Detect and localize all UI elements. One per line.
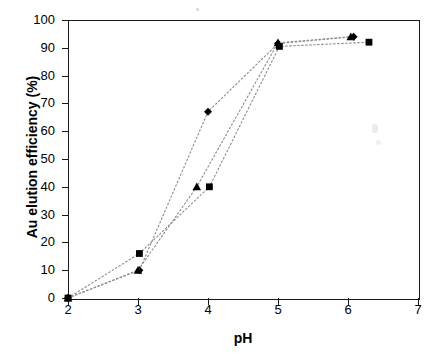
- y-axis-tick: [62, 20, 69, 21]
- x-axis-tick-label: 3: [118, 303, 158, 317]
- y-axis-tick-label: 60: [15, 124, 55, 137]
- y-axis-tick-label: 30: [15, 208, 55, 221]
- y-axis-tick-label: 100: [15, 13, 55, 26]
- x-axis-title: pH: [68, 330, 418, 346]
- x-axis-tick-label: 2: [48, 303, 88, 317]
- y-axis-tick-label: 90: [15, 41, 55, 54]
- y-axis-tick-label: 40: [15, 180, 55, 193]
- y-axis-tick: [62, 76, 69, 77]
- y-axis-tick-label: 50: [15, 152, 55, 165]
- x-axis-tick-label: 6: [328, 303, 368, 317]
- y-axis-tick-label: 10: [15, 263, 55, 276]
- y-axis-tick: [62, 242, 69, 243]
- y-axis-tick: [62, 215, 69, 216]
- y-axis-tick: [62, 159, 69, 160]
- y-axis-tick-label: 80: [15, 69, 55, 82]
- scan-speck: [376, 140, 381, 145]
- y-axis-tick: [62, 131, 69, 132]
- plot-area: [68, 20, 420, 300]
- x-axis-tick-label: 4: [188, 303, 228, 317]
- y-axis-tick: [62, 48, 69, 49]
- chart-figure: Au elution efficiency (%) 01020304050607…: [0, 0, 433, 355]
- y-axis-tick-label: 70: [15, 96, 55, 109]
- y-axis-tick: [62, 187, 69, 188]
- x-axis-tick-label: 7: [398, 303, 433, 317]
- y-axis-tick: [62, 103, 69, 104]
- scan-speck: [196, 8, 199, 11]
- scan-speck: [372, 124, 378, 133]
- x-axis-tick-label: 5: [258, 303, 298, 317]
- y-axis-tick: [62, 270, 69, 271]
- y-axis-tick-label: 20: [15, 235, 55, 248]
